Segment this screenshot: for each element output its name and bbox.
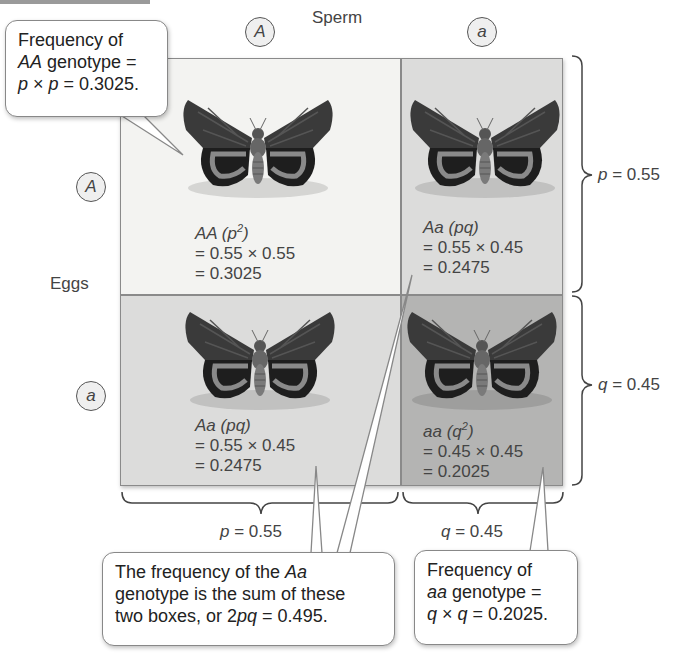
moth-icon: [183, 100, 332, 198]
calc: = 0.45 × 0.45: [423, 442, 523, 462]
callout-line: Frequency of: [427, 559, 565, 581]
calc: = 0.55 × 0.55: [195, 244, 295, 264]
result: = 0.2025: [423, 462, 523, 482]
callout-AA-frequency: Frequency of AA genotype = p × p = 0.302…: [5, 20, 168, 117]
callout-line: aa genotype =: [427, 581, 565, 603]
cell-aa-text: aa (q2) = 0.45 × 0.45 = 0.2025: [423, 416, 523, 482]
result: = 0.3025: [195, 264, 295, 284]
pointer-top-left: [122, 116, 183, 155]
calc: = 0.55 × 0.45: [423, 238, 523, 258]
result: = 0.2475: [195, 456, 295, 476]
formula: (pq): [444, 218, 479, 237]
egg-allele-a: a: [76, 381, 106, 411]
cell-Aa-top-text: Aa (pq) = 0.55 × 0.45 = 0.2475: [423, 218, 523, 278]
callout-line: The frequency of the Aa: [115, 561, 382, 583]
cell-AA-text: AA (p2) = 0.55 × 0.55 = 0.3025: [195, 218, 295, 284]
pointer-bottom-right: [530, 467, 548, 551]
moth-icon: [410, 100, 559, 198]
callout-line: two boxes, or 2pq = 0.495.: [115, 605, 382, 627]
sperm-label: Sperm: [312, 8, 362, 28]
formula-end: ): [468, 422, 474, 441]
pointer-middle-a: [311, 466, 322, 553]
brace-right-top: [572, 56, 592, 292]
genotype-label: Aa: [195, 416, 216, 435]
brace-right-bottom: [572, 296, 592, 485]
callout-line: genotype is the sum of these: [115, 583, 382, 605]
callout-aa-frequency: Frequency of aa genotype = q × q = 0.202…: [414, 550, 578, 645]
formula: (q: [442, 422, 462, 441]
brace-label-bottom-left: p = 0.55: [220, 522, 282, 542]
eggs-label: Eggs: [50, 274, 89, 294]
formula: (p: [217, 224, 237, 243]
brace-label-right-bottom: q = 0.45: [598, 375, 660, 395]
brace-label-bottom-right: q = 0.45: [441, 522, 503, 542]
calc: = 0.55 × 0.45: [195, 436, 295, 456]
moth-icon: [185, 312, 334, 410]
callout-line: q × q = 0.2025.: [427, 603, 565, 625]
genotype-label: aa: [423, 422, 442, 441]
genotype-label: AA: [195, 224, 217, 243]
callout-Aa-frequency: The frequency of the Aa genotype is the …: [102, 552, 395, 646]
callout-line: p × p = 0.3025.: [18, 73, 155, 95]
formula: (pq): [216, 416, 251, 435]
moth-icon: [407, 312, 556, 410]
pointer-middle-b: [337, 275, 412, 553]
genotype-label: Aa: [423, 218, 444, 237]
result: = 0.2475: [423, 258, 523, 278]
formula-end: ): [243, 224, 249, 243]
callout-line: Frequency of: [18, 29, 155, 51]
sperm-allele-a: a: [467, 17, 497, 47]
sperm-allele-A: A: [245, 17, 275, 47]
callout-line: AA genotype =: [18, 51, 155, 73]
brace-label-right-top: p = 0.55: [598, 165, 660, 185]
cell-Aa-bottom-text: Aa (pq) = 0.55 × 0.45 = 0.2475: [195, 416, 295, 476]
egg-allele-A: A: [76, 172, 106, 202]
